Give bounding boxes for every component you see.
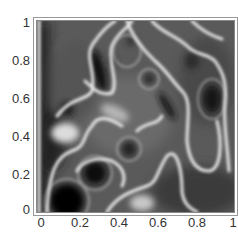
x-tick-label: 0.4 [110, 216, 128, 229]
y-tick-label: 1 [23, 16, 30, 29]
y-tick-label: 0.4 [12, 130, 30, 143]
x-tick-label: 0.8 [188, 216, 206, 229]
y-tick-label: 0.2 [12, 168, 30, 181]
heatmap-field [37, 21, 234, 212]
x-tick-label: 0.6 [149, 216, 167, 229]
x-tick-label: 0.2 [71, 216, 89, 229]
y-tick-label: 0.8 [12, 54, 30, 67]
x-tick-label: 1 [229, 216, 236, 229]
y-tick-label: 0 [23, 203, 30, 216]
x-tick-label: 0 [37, 216, 44, 229]
y-tick-label: 0.6 [12, 92, 30, 105]
